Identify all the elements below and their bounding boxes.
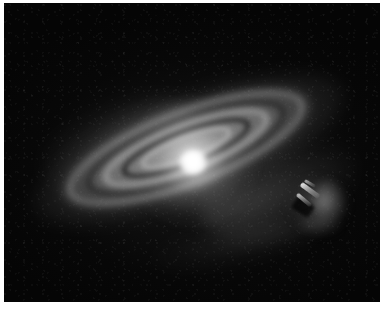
disk-mid-brightness: [46, 61, 326, 234]
companion-wisp: [313, 180, 343, 224]
inner-ring: [95, 93, 277, 203]
companion-haze: [289, 178, 347, 232]
companion-tail: [297, 216, 341, 236]
central-star: [180, 150, 206, 174]
innermost-rim: [137, 118, 236, 177]
companion-bright-shard-c: [304, 179, 316, 188]
outer-gap: [75, 80, 297, 215]
companion-bright-shard-a: [300, 182, 321, 199]
disk-halo: [16, 41, 361, 256]
astronomical-image-frame: [4, 3, 380, 302]
southwest-plume: [189, 128, 366, 256]
companion-dark-lane: [291, 196, 315, 219]
companion-knot: [287, 176, 349, 234]
page-root: [0, 0, 384, 318]
inner-gap: [115, 105, 257, 190]
central-star-glow: [127, 96, 259, 228]
lower-diffuse-wisp: [152, 202, 327, 279]
northeast-plume: [32, 80, 207, 205]
outer-ring: [55, 67, 317, 228]
sky-background-wash: [4, 3, 380, 302]
sky-noise-grain: [4, 3, 380, 302]
companion-bright-shard-b: [296, 193, 312, 208]
